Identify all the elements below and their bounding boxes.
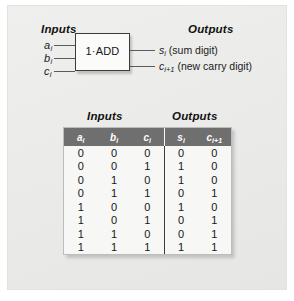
truth-table-grid: ai bi ci si ci+1 00000001100101001101100… [64,128,231,254]
wire-output-carry [130,66,155,67]
truth-table-cell-c_i: 0 [131,200,164,214]
truth-table-row: 11111 [64,241,231,255]
truth-table-row: 11001 [64,227,231,241]
truth-table-cell-c_i1: 0 [198,173,231,187]
wire-input-b [54,58,75,59]
truth-table-cell-a_i: 1 [64,227,97,241]
column-header-b: bi [97,128,130,146]
diagram-inputs-heading: Inputs [41,23,77,35]
truth-table-cell-c_i1: 1 [198,241,231,255]
truth-table-cell-s_i: 0 [164,146,197,160]
table-outputs-heading: Outputs [172,110,217,122]
truth-table-cell-c_i1: 1 [198,187,231,201]
output-port-s-subscript: i [164,49,166,58]
column-header-s: si [164,128,197,146]
truth-table-cell-c_i: 1 [131,241,164,255]
column-header-s-subscript: i [183,137,185,144]
wire-output-s [130,50,155,51]
truth-table-cell-b_i: 1 [97,187,130,201]
input-port-c-name: c [44,65,50,77]
truth-table-cell-c_i1: 1 [198,227,231,241]
truth-table-header: ai bi ci si ci+1 [64,128,231,146]
truth-table-cell-c_i: 0 [131,146,164,160]
column-header-a-subscript: i [83,137,85,144]
output-port-carry-description: (new carry digit) [177,60,252,72]
truth-table-cell-a_i: 1 [64,200,97,214]
truth-table-cell-a_i: 1 [64,214,97,228]
truth-table: ai bi ci si ci+1 00000001100101001101100… [63,127,232,255]
truth-table-body: 0000000110010100110110010101011100111111 [64,146,231,254]
truth-table-row: 01010 [64,173,231,187]
truth-table-cell-c_i: 0 [131,173,164,187]
output-port-label-s: si (sum digit) [159,44,218,56]
truth-table-cell-b_i: 0 [97,200,130,214]
input-port-label-b: bi [44,52,52,64]
table-inputs-heading: Inputs [87,110,123,122]
truth-table-cell-s_i: 1 [164,160,197,174]
truth-table-cell-s_i: 0 [164,214,197,228]
truth-table-cell-s_i: 1 [164,241,197,255]
truth-table-cell-c_i1: 0 [198,160,231,174]
column-header-a: ai [64,128,97,146]
truth-table-cell-c_i: 1 [131,160,164,174]
truth-table-cell-a_i: 1 [64,241,97,255]
column-header-c-subscript: i [149,137,151,144]
truth-table-header-row: ai bi ci si ci+1 [64,128,231,146]
truth-table-cell-c_i: 0 [131,227,164,241]
truth-table-row: 10010 [64,200,231,214]
truth-table-cell-c_i: 1 [131,214,164,228]
column-header-carry: ci+1 [198,128,231,146]
truth-table-cell-b_i: 0 [97,146,130,160]
diagram-outputs-heading: Outputs [188,23,233,35]
output-port-carry-subscript: i+1 [164,65,174,74]
truth-table-cell-a_i: 0 [64,160,97,174]
truth-table-cell-c_i: 1 [131,187,164,201]
wire-input-c [54,71,75,72]
output-port-s-description: (sum digit) [169,44,218,56]
truth-table-cell-s_i: 0 [164,227,197,241]
output-port-label-carry: ci+1 (new carry digit) [159,60,252,72]
truth-table-cell-s_i: 1 [164,200,197,214]
truth-table-cell-s_i: 1 [164,173,197,187]
truth-table-cell-s_i: 0 [164,187,197,201]
input-port-label-a: ai [44,39,52,51]
truth-table-row: 00110 [64,160,231,174]
column-header-b-subscript: i [116,137,118,144]
truth-table-cell-c_i1: 1 [198,214,231,228]
truth-table-cell-b_i: 1 [97,227,130,241]
column-header-a-name: a [77,132,83,143]
column-header-c: ci [131,128,164,146]
adder-block-label: 1·ADD [76,45,129,57]
truth-table-cell-a_i: 0 [64,146,97,160]
adder-block: 1·ADD [75,33,130,71]
wire-input-a [54,45,75,46]
truth-table-row: 00000 [64,146,231,160]
input-port-label-c: ci [44,65,51,77]
truth-table-cell-a_i: 0 [64,173,97,187]
truth-table-cell-c_i1: 0 [198,146,231,160]
truth-table-row: 01101 [64,187,231,201]
figure-full-adder: Inputs Outputs ai bi ci 1·ADD si (sum di… [0,0,294,301]
truth-table-cell-a_i: 0 [64,187,97,201]
truth-table-cell-b_i: 0 [97,214,130,228]
truth-table-row: 10101 [64,214,231,228]
truth-table-cell-b_i: 1 [97,173,130,187]
truth-table-cell-b_i: 0 [97,160,130,174]
truth-table-cell-c_i1: 0 [198,200,231,214]
column-header-carry-subscript: i+1 [212,137,222,144]
truth-table-cell-b_i: 1 [97,241,130,255]
